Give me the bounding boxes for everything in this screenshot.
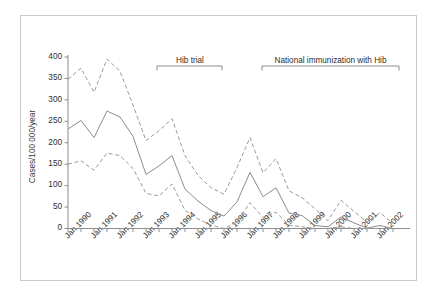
figure-frame	[20, 15, 417, 281]
annotation-label-national-immunization: National immunization with Hib	[262, 56, 399, 65]
y-tick-label: 200	[36, 139, 62, 147]
chart-page: Cases/100 000/year 400 350 300 250 200 1…	[0, 0, 439, 297]
y-tick-label: 400	[36, 53, 62, 61]
y-tick-label: 300	[36, 96, 62, 104]
y-tick-label: 250	[36, 117, 62, 125]
y-tick-label: 50	[36, 203, 62, 211]
y-tick-label: 350	[36, 74, 62, 82]
annotation-label-hib-trial: Hib trial	[157, 56, 223, 65]
y-axis-tick-labels: 400 350 300 250 200 150 100 50 0	[36, 0, 62, 297]
y-tick-label: 150	[36, 160, 62, 168]
y-tick-label: 0	[36, 224, 62, 232]
y-tick-label: 100	[36, 181, 62, 189]
